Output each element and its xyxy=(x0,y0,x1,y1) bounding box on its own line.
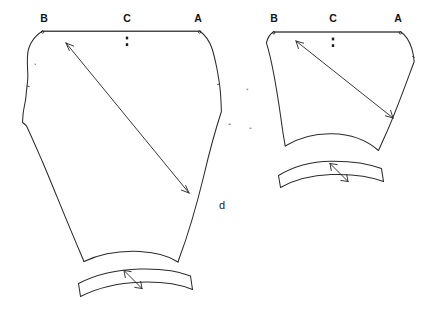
figure-caption-label: d xyxy=(219,199,225,211)
left-piece-outline xyxy=(23,31,84,262)
left-piece-label-c: C xyxy=(123,12,131,24)
left-piece-label-a: A xyxy=(194,12,202,24)
scan-speck-3 xyxy=(249,128,251,129)
pattern-diagram: B C A B C A d xyxy=(0,0,444,316)
right-pattern-piece-group xyxy=(266,32,414,151)
left-piece-grain-arrow xyxy=(66,43,189,193)
left-cuff-grain-arrow xyxy=(124,271,142,289)
right-piece-notch-upper xyxy=(332,38,334,41)
right-piece-label-c: C xyxy=(329,12,337,24)
left-cuff-band-group xyxy=(79,269,193,297)
left-piece-hem-curve xyxy=(84,251,178,262)
left-piece-notch-upper xyxy=(126,37,128,40)
right-cuff-band-group xyxy=(279,161,384,187)
scan-speck-1 xyxy=(35,64,36,65)
scan-speck-4 xyxy=(247,89,249,91)
right-cuff-grain-arrow xyxy=(330,164,348,182)
scan-speck-2 xyxy=(228,124,231,125)
left-piece-right-outline xyxy=(178,31,221,262)
left-piece-side-notch-2 xyxy=(218,84,220,85)
left-piece-side-notch-1 xyxy=(27,86,29,87)
right-piece-outline xyxy=(266,32,285,146)
left-cuff-band-outline xyxy=(79,269,193,297)
left-piece-notch-lower xyxy=(126,43,128,46)
right-piece-hem-curve xyxy=(285,134,378,151)
right-piece-notch-lower xyxy=(332,44,334,47)
right-piece-label-a: A xyxy=(394,12,402,24)
right-piece-label-b: B xyxy=(270,12,278,24)
left-piece-label-b: B xyxy=(40,12,48,24)
pattern-diagram-canvas: B C A B C A d xyxy=(0,0,444,316)
right-piece-grain-arrow xyxy=(296,41,393,118)
right-piece-right-outline xyxy=(379,32,415,151)
left-pattern-piece-group xyxy=(23,31,222,262)
